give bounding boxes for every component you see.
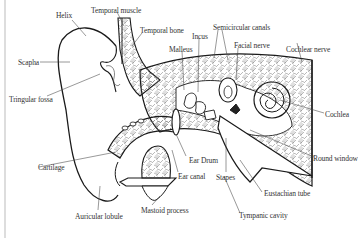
label-semicircular-canals: Semicircular canals xyxy=(213,24,270,32)
pinna-outline xyxy=(58,28,118,201)
label-temporal-muscle: Temporal muscle xyxy=(91,7,141,15)
label-cochlear-nerve: Cochlear nerve xyxy=(286,46,330,54)
label-tringular-fossa: Tringular fossa xyxy=(9,96,53,104)
label-malleus: Malleus xyxy=(169,46,192,54)
label-temporal-bone: Temporal bone xyxy=(140,27,184,35)
label-stapes: Stapes xyxy=(216,174,235,182)
label-cochlea: Cochlea xyxy=(325,111,349,119)
mastoid-block xyxy=(120,178,176,186)
label-scapha: Scapha xyxy=(18,59,39,67)
label-ear-drum: Ear Drum xyxy=(189,157,218,165)
tragus xyxy=(106,66,120,86)
label-mastoid-process: Mastoid process xyxy=(141,207,188,215)
label-tympanic-cavity: Tympanic cavity xyxy=(239,212,288,220)
label-round-window: Round window xyxy=(313,155,358,163)
label-auricular-lobule: Auricular lobule xyxy=(75,213,123,221)
label-facial-nerve: Facial nerve xyxy=(234,42,270,50)
label-cartilage: Cartilage xyxy=(38,164,65,172)
label-helix: Helix xyxy=(56,12,72,20)
mastoid-process-shape xyxy=(142,186,168,200)
ear-drum-shape xyxy=(172,109,180,135)
antihelix-fold xyxy=(101,46,117,92)
label-eustachian-tube: Eustachian tube xyxy=(264,190,310,198)
label-ear-canal: Ear canal xyxy=(178,173,205,181)
label-incus: Incus xyxy=(192,33,208,41)
